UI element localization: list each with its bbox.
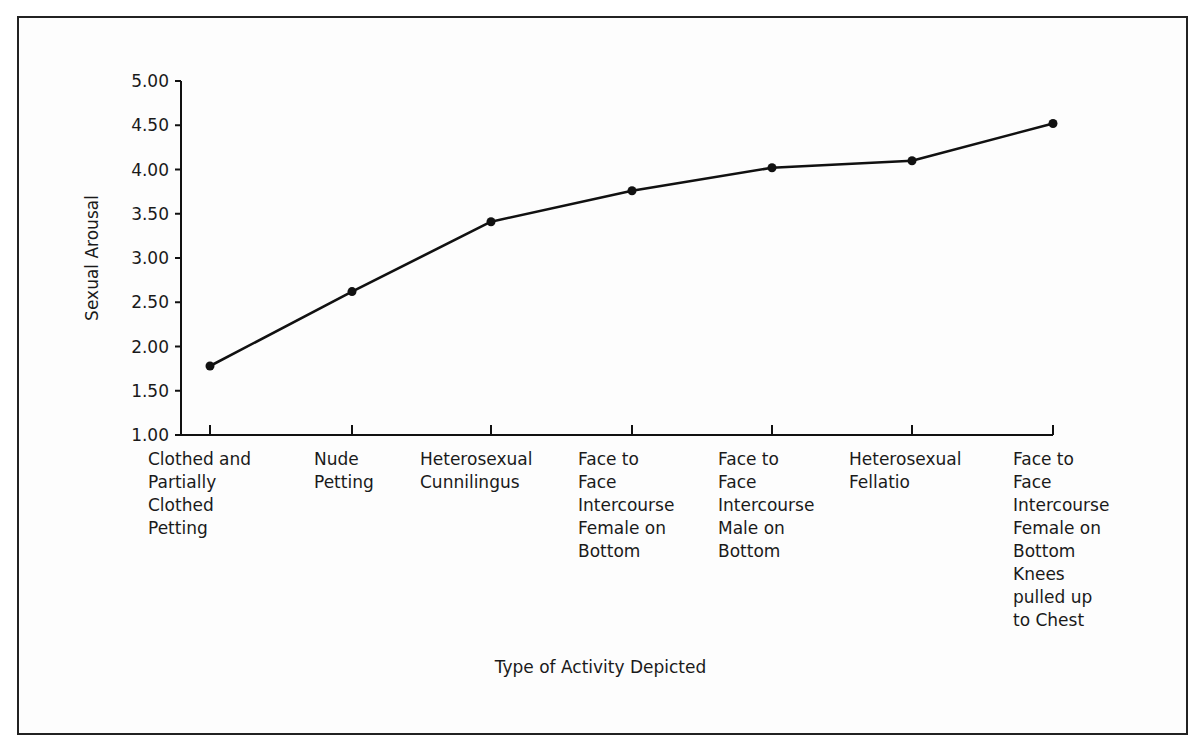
y-tick-label: 1.00 [131, 425, 169, 445]
x-category-label: Heterosexual Cunnilingus [420, 448, 532, 494]
x-category-label: Face to Face Intercourse Female on Botto… [578, 448, 674, 563]
y-tick-label: 5.00 [131, 71, 169, 91]
y-tick-label: 4.00 [131, 160, 169, 180]
x-category-label: Clothed and Partially Clothed Petting [148, 448, 251, 540]
data-point [908, 156, 917, 165]
series-line [210, 124, 1053, 367]
data-point [628, 186, 637, 195]
y-axis-title: Sexual Arousal [82, 195, 102, 321]
data-point [348, 287, 357, 296]
x-axis [181, 425, 1053, 435]
x-category-label: Heterosexual Fellatio [849, 448, 961, 494]
data-point [487, 217, 496, 226]
x-category-label: Face to Face Intercourse Female on Botto… [1013, 448, 1109, 632]
data-point [206, 362, 215, 371]
data-point [768, 163, 777, 172]
x-axis-title: Type of Activity Depicted [0, 657, 1201, 677]
x-category-label: Nude Petting [314, 448, 374, 494]
y-axis: 1.001.502.002.503.003.504.004.505.00 [131, 71, 181, 445]
y-tick-label: 2.00 [131, 337, 169, 357]
y-tick-label: 1.50 [131, 381, 169, 401]
y-tick-label: 2.50 [131, 292, 169, 312]
y-tick-label: 3.00 [131, 248, 169, 268]
y-tick-label: 4.50 [131, 115, 169, 135]
line-chart: 1.001.502.002.503.003.504.004.505.00 Sex… [0, 0, 1201, 750]
data-point [1049, 119, 1058, 128]
x-category-label: Face to Face Intercourse Male on Bottom [718, 448, 814, 563]
y-tick-label: 3.50 [131, 204, 169, 224]
